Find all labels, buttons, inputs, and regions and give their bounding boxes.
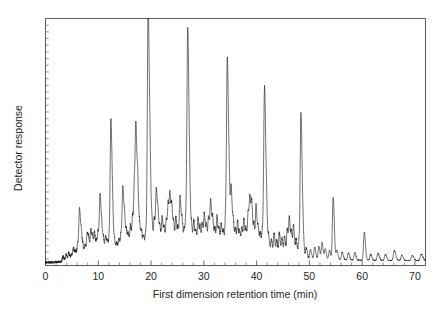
chart-background (0, 0, 441, 315)
chromatogram-figure: 010203040506070 First dimension retentio… (0, 0, 441, 315)
x-tick-label: 40 (251, 270, 263, 282)
x-tick-label: 20 (145, 270, 157, 282)
x-tick-label: 10 (92, 270, 104, 282)
x-tick-label: 50 (304, 270, 316, 282)
x-tick-label: 30 (198, 270, 210, 282)
x-tick-label: 0 (43, 270, 49, 282)
chromatogram-chart: 010203040506070 First dimension retentio… (0, 0, 441, 315)
x-axis-label: First dimension retention time (min) (153, 288, 318, 300)
x-tick-label: 70 (409, 270, 421, 282)
y-axis-label: Detector response (12, 105, 24, 191)
x-tick-label: 60 (356, 270, 368, 282)
